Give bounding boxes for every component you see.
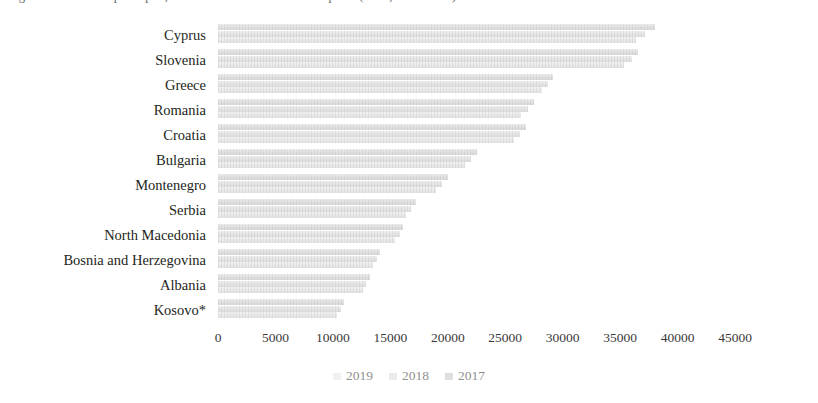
bar [218, 31, 645, 37]
x-axis-tick-label: 25000 [488, 330, 522, 346]
y-axis-label: Cyprus [164, 28, 206, 43]
bar [218, 87, 542, 93]
legend-label: 2019 [346, 369, 373, 383]
bar [218, 187, 436, 193]
bar [218, 281, 366, 287]
bar [218, 37, 636, 43]
bar [218, 287, 363, 293]
x-axis-tick-label: 20000 [431, 330, 465, 346]
legend-item[interactable]: 2017 [445, 369, 485, 383]
bar-group [218, 172, 735, 197]
bar [218, 306, 341, 312]
bar [218, 312, 337, 318]
bar-group [218, 197, 735, 222]
y-axis-label: Romania [154, 103, 206, 118]
bar [218, 162, 465, 168]
bar-group [218, 247, 735, 272]
bar [218, 131, 520, 137]
bar-group [218, 122, 735, 147]
legend-item[interactable]: 2019 [333, 369, 373, 383]
bar [218, 299, 344, 305]
x-axis-tick-label: 10000 [316, 330, 350, 346]
y-axis-label: Bosnia and Herzegovina [63, 253, 206, 268]
y-axis-label: Bulgaria [156, 153, 206, 168]
bar-chart: CyprusSloveniaGreeceRomaniaCroatiaBulgar… [0, 0, 818, 403]
y-axis-label: North Macedonia [104, 228, 206, 243]
bar-group [218, 47, 735, 72]
chart-legend: 201920182017 [0, 369, 818, 391]
bar [218, 256, 377, 262]
bar [218, 174, 448, 180]
y-axis-label: Montenegro [135, 178, 206, 193]
bar-group [218, 72, 735, 97]
x-axis-tick-labels: 0500010000150002000025000300003500040000… [0, 330, 818, 350]
bar [218, 181, 442, 187]
x-axis-tick-label: 40000 [661, 330, 695, 346]
bar [218, 156, 471, 162]
bar [218, 56, 632, 62]
bar [218, 262, 373, 268]
bar-group [218, 222, 735, 247]
y-axis-label: Serbia [169, 203, 206, 218]
bar [218, 274, 370, 280]
bar [218, 106, 528, 112]
bar [218, 112, 521, 118]
bar-group [218, 147, 735, 172]
x-axis-tick-label: 45000 [718, 330, 752, 346]
bar [218, 231, 400, 237]
legend-label: 2017 [458, 369, 485, 383]
y-axis-category-labels: CyprusSloveniaGreeceRomaniaCroatiaBulgar… [0, 22, 212, 322]
bar [218, 212, 406, 218]
bar [218, 249, 380, 255]
x-axis-tick-label: 15000 [373, 330, 407, 346]
legend-swatch-icon [389, 373, 397, 380]
bar [218, 224, 403, 230]
x-axis-tick-label: 5000 [262, 330, 289, 346]
bar [218, 81, 548, 87]
plot-area [218, 22, 735, 322]
bar [218, 206, 411, 212]
bar [218, 24, 655, 30]
bar [218, 199, 416, 205]
bar-group [218, 272, 735, 297]
y-axis-label: Greece [165, 78, 206, 93]
y-axis-label: Kosovo* [154, 303, 206, 318]
bar-group [218, 297, 735, 322]
x-axis-tick-label: 35000 [603, 330, 637, 346]
bar-group [218, 22, 735, 47]
bar [218, 62, 624, 68]
legend-label: 2018 [402, 369, 429, 383]
legend-swatch-icon [445, 373, 453, 380]
y-axis-label: Slovenia [155, 53, 206, 68]
x-axis-tick-label: 0 [215, 330, 222, 346]
bar-group [218, 97, 735, 122]
x-axis-line [218, 322, 735, 324]
bar [218, 49, 638, 55]
bar [218, 137, 514, 143]
y-axis-label: Croatia [163, 128, 206, 143]
bar [218, 149, 477, 155]
bar [218, 124, 526, 130]
x-axis-tick-label: 30000 [546, 330, 580, 346]
bar [218, 237, 395, 243]
bar [218, 74, 553, 80]
y-axis-label: Albania [160, 278, 206, 293]
legend-item[interactable]: 2018 [389, 369, 429, 383]
legend-swatch-icon [333, 373, 341, 380]
bar [218, 99, 534, 105]
